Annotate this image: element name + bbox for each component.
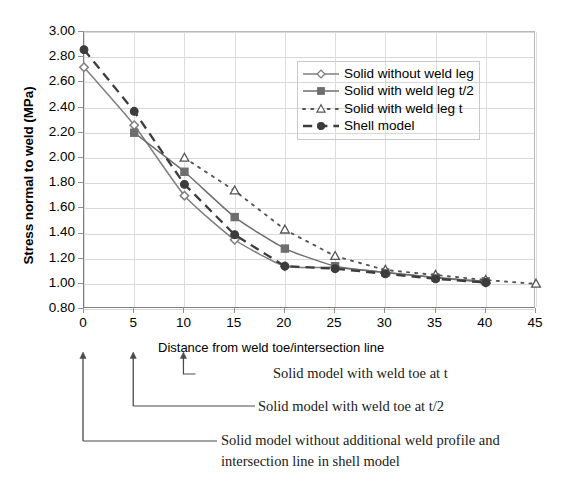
annotation-weld-toe-t: Solid model with weld toe at t xyxy=(273,364,448,383)
annotation-arrow xyxy=(180,352,186,366)
stress-distribution-chart: Stress normal to weld (MPa) 3.002.802.60… xyxy=(0,0,575,489)
annotation-arrow xyxy=(130,352,136,406)
annotation-leader xyxy=(183,366,195,374)
annotation-layer: Solid model with weld toe at t Solid mod… xyxy=(0,0,575,489)
annotation-arrow xyxy=(80,352,86,441)
annotation-no-weld-profile: Solid model without additional weld prof… xyxy=(221,431,500,450)
annotation-weld-toe-t2: Solid model with weld toe at t/2 xyxy=(258,397,444,416)
annotation-no-weld-profile-line2: intersection line in shell model xyxy=(221,452,400,471)
